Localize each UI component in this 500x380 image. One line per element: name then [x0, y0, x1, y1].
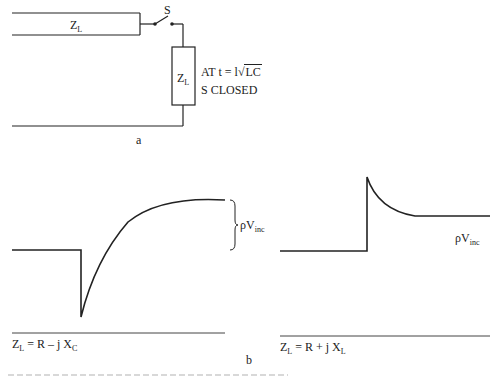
- left-caption: ZL = R – j XC: [12, 338, 77, 353]
- switch-label: S: [164, 4, 171, 16]
- brace-rho-vinc: [230, 200, 238, 250]
- switch: [140, 16, 183, 47]
- line-impedance-label: ZL: [70, 19, 82, 34]
- return-wire: [12, 105, 183, 126]
- diagram-canvas: [0, 0, 500, 380]
- switch-contact-right: [170, 22, 174, 26]
- switch-state-annotation: S CLOSED: [201, 84, 257, 96]
- figure-caption-cropped: [8, 374, 288, 376]
- right-level-label: ρVinc: [455, 232, 479, 247]
- part-b-label: b: [246, 354, 252, 366]
- left-brace-label: ρVinc: [240, 219, 264, 234]
- waveform-capacitive: [12, 199, 225, 317]
- switch-timing-annotation: AT t = l√LC: [201, 66, 262, 78]
- switch-contact-left: [153, 22, 157, 26]
- part-a-label: a: [136, 134, 141, 146]
- load-impedance-label: ZL: [177, 72, 189, 87]
- right-caption: ZL = R + j XL: [280, 341, 346, 356]
